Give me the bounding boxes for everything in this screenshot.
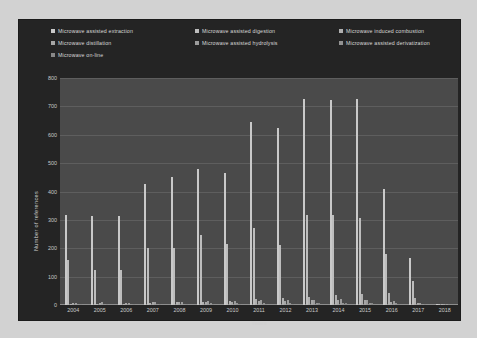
bar-group-2008 bbox=[171, 78, 189, 305]
bar bbox=[398, 304, 400, 305]
bar-group-2018 bbox=[436, 78, 454, 305]
legend-label: Microwave assisted extraction bbox=[58, 28, 133, 34]
legend-swatch-icon bbox=[195, 41, 199, 45]
bar bbox=[239, 304, 241, 305]
legend-label: Microwave assisted derivatization bbox=[346, 40, 430, 46]
bar bbox=[359, 218, 361, 305]
y-axis-title: Number of references bbox=[33, 191, 39, 251]
legend-swatch-icon bbox=[195, 29, 199, 33]
bar bbox=[147, 248, 149, 305]
x-axis-tick-label: 2014 bbox=[333, 307, 345, 313]
bar bbox=[318, 303, 320, 305]
bar bbox=[226, 244, 228, 305]
y-axis-tick-label: 300 bbox=[48, 217, 57, 223]
plot-grid-and-bars bbox=[60, 78, 458, 305]
legend-label: Microwave induced combustion bbox=[346, 28, 424, 34]
x-axis-tick-label: 2009 bbox=[200, 307, 212, 313]
legend-label: Microwave on-line bbox=[58, 52, 103, 58]
y-axis-tick-labels: Number of references 0100200300400500600… bbox=[38, 78, 59, 305]
x-axis-tick-label: 2010 bbox=[226, 307, 238, 313]
legend-label: Microwave distillation bbox=[58, 40, 111, 46]
legend-item-microwave-distillation: Microwave distillation bbox=[51, 37, 201, 48]
bar bbox=[253, 228, 255, 305]
bar-group-2007 bbox=[144, 78, 162, 305]
legend-item-microwave-assisted-extraction: Microwave assisted extraction bbox=[51, 25, 201, 36]
legend-item-microwave-on-line: Microwave on-line bbox=[51, 49, 201, 60]
bar-group-2011 bbox=[250, 78, 268, 305]
x-axis-tick-label: 2005 bbox=[94, 307, 106, 313]
legend-column-1: Microwave assisted extraction Microwave … bbox=[51, 25, 201, 61]
x-axis-tick-label: 2016 bbox=[386, 307, 398, 313]
bar bbox=[424, 304, 426, 305]
bar bbox=[133, 304, 135, 305]
chart-panel: Microwave assisted extraction Microwave … bbox=[19, 20, 460, 320]
bar bbox=[212, 304, 214, 305]
bar bbox=[173, 248, 175, 305]
legend-swatch-icon bbox=[51, 29, 55, 33]
legend-item-microwave-assisted-hydrolysis: Microwave assisted hydrolysis bbox=[195, 37, 345, 48]
bar-group-2012 bbox=[277, 78, 295, 305]
bar-group-2009 bbox=[197, 78, 215, 305]
bar bbox=[446, 304, 448, 305]
x-axis-tick-label: 2018 bbox=[439, 307, 451, 313]
plot-area bbox=[60, 78, 458, 305]
bar bbox=[292, 304, 294, 305]
bar bbox=[186, 304, 188, 305]
y-axis-tick-label: 400 bbox=[48, 189, 57, 195]
legend-column-3: Microwave induced combustion Microwave a… bbox=[339, 25, 477, 49]
legend-item-microwave-assisted-digestion: Microwave assisted digestion bbox=[195, 25, 345, 36]
x-axis-title: Years bbox=[60, 320, 458, 326]
x-axis-tick-label: 2007 bbox=[147, 307, 159, 313]
bar-group-2006 bbox=[118, 78, 136, 305]
legend-swatch-icon bbox=[51, 53, 55, 57]
bar-group-2013 bbox=[303, 78, 321, 305]
bar bbox=[159, 304, 161, 305]
bar bbox=[345, 303, 347, 305]
bar bbox=[94, 270, 96, 305]
bar bbox=[80, 304, 82, 305]
x-axis-tick-label: 2004 bbox=[67, 307, 79, 313]
bar bbox=[200, 235, 202, 305]
y-axis-tick-label: 700 bbox=[48, 103, 57, 109]
x-axis-tick-label: 2017 bbox=[412, 307, 424, 313]
bar-group-2004 bbox=[65, 78, 83, 305]
legend-item-microwave-assisted-derivatization: Microwave assisted derivatization bbox=[339, 37, 477, 48]
bar-group-2015 bbox=[356, 78, 374, 305]
bar bbox=[265, 304, 267, 305]
bar bbox=[106, 304, 108, 305]
bar bbox=[279, 245, 281, 305]
x-axis-tick-label: 2013 bbox=[306, 307, 318, 313]
y-axis-tick-label: 100 bbox=[48, 274, 57, 280]
legend-column-2: Microwave assisted digestion Microwave a… bbox=[195, 25, 345, 49]
x-axis-tick-label: 2015 bbox=[359, 307, 371, 313]
x-axis-tick-label: 2006 bbox=[120, 307, 132, 313]
bar bbox=[306, 215, 308, 305]
legend-swatch-icon bbox=[51, 41, 55, 45]
bar bbox=[371, 303, 373, 305]
x-axis-tick-label: 2008 bbox=[173, 307, 185, 313]
y-axis-tick-label: 500 bbox=[48, 160, 57, 166]
y-axis-tick-label: 0 bbox=[54, 302, 57, 308]
y-axis-tick-label: 800 bbox=[48, 75, 57, 81]
bar bbox=[67, 260, 69, 305]
bar-group-2017 bbox=[409, 78, 427, 305]
legend-label: Microwave assisted digestion bbox=[202, 28, 275, 34]
y-axis-tick-label: 200 bbox=[48, 245, 57, 251]
y-axis-tick-label: 600 bbox=[48, 132, 57, 138]
x-axis-tick-labels: 2004200520062007200820092010201120122013… bbox=[60, 307, 458, 319]
x-axis-tick-label: 2011 bbox=[253, 307, 265, 313]
chart-legend: Microwave assisted extraction Microwave … bbox=[33, 25, 453, 65]
bar-group-2010 bbox=[224, 78, 242, 305]
legend-label: Microwave assisted hydrolysis bbox=[202, 40, 278, 46]
legend-item-microwave-induced-combustion: Microwave induced combustion bbox=[339, 25, 477, 36]
bar-group-2014 bbox=[330, 78, 348, 305]
bar-group-2005 bbox=[91, 78, 109, 305]
legend-swatch-icon bbox=[339, 29, 343, 33]
chart-figure: Microwave assisted extraction Microwave … bbox=[0, 0, 477, 338]
bar-group-2016 bbox=[383, 78, 401, 305]
legend-swatch-icon bbox=[339, 41, 343, 45]
x-axis-tick-label: 2012 bbox=[280, 307, 292, 313]
bar bbox=[332, 215, 334, 305]
bar bbox=[120, 270, 122, 305]
